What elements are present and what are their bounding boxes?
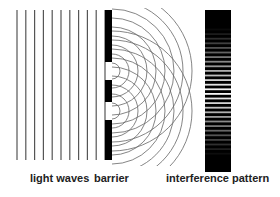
wave-arc xyxy=(112,54,129,88)
fringe xyxy=(205,65,231,67)
fringe xyxy=(205,29,231,31)
fringe xyxy=(205,52,231,54)
barrier xyxy=(105,10,112,160)
double-slit-diagram xyxy=(0,0,280,197)
fringe xyxy=(205,70,231,72)
fringe xyxy=(205,33,231,35)
fringe xyxy=(205,47,231,49)
wave-arc xyxy=(112,0,183,142)
fringe xyxy=(205,98,231,100)
wave-arc xyxy=(112,0,192,151)
fringe xyxy=(205,102,231,104)
fringe xyxy=(205,125,231,127)
fringe xyxy=(205,38,231,40)
fringe xyxy=(205,61,231,63)
wave-arc xyxy=(112,31,192,191)
fringe xyxy=(205,134,231,136)
barrier-segment xyxy=(105,10,112,62)
fringe xyxy=(205,116,231,118)
fringe xyxy=(205,153,231,155)
fringe xyxy=(205,144,231,146)
fringe xyxy=(205,79,231,81)
barrier-segment xyxy=(105,120,112,160)
light-wave-lines xyxy=(17,10,105,160)
fringe xyxy=(205,56,231,58)
fringe xyxy=(205,139,231,141)
fringe xyxy=(205,148,231,150)
barrier-label: barrier xyxy=(94,172,129,184)
fringe xyxy=(205,42,231,44)
fringe xyxy=(205,93,231,95)
fringe xyxy=(205,88,231,90)
fringe xyxy=(205,130,231,132)
light-waves-label: light waves xyxy=(30,172,89,184)
diffraction-arcs xyxy=(112,0,192,191)
fringe xyxy=(205,111,231,113)
interference-pattern-label: interference pattern xyxy=(166,172,269,184)
fringe xyxy=(205,75,231,77)
interference-pattern xyxy=(205,10,231,172)
fringe xyxy=(205,84,231,86)
fringe xyxy=(205,121,231,123)
fringe xyxy=(205,107,231,109)
barrier-segment xyxy=(105,80,112,102)
wave-arc xyxy=(112,94,129,128)
wave-arc xyxy=(112,40,183,182)
